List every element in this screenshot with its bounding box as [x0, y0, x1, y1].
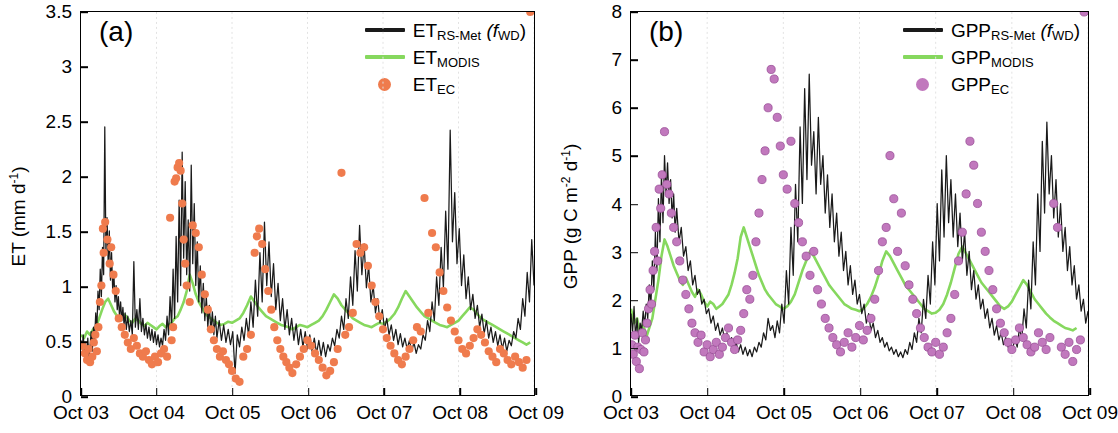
data-point	[993, 305, 1001, 313]
y-tick-mark	[631, 252, 638, 254]
data-point	[97, 281, 105, 289]
y-tick-label: 5	[611, 145, 631, 167]
data-point	[676, 257, 684, 265]
data-point	[737, 326, 745, 334]
y-tick-label: 7	[611, 49, 631, 71]
x-tick-label: Oct 04	[680, 395, 736, 424]
data-point	[682, 290, 690, 298]
data-point	[192, 229, 200, 237]
y-tick-mark	[631, 204, 638, 206]
data-point	[243, 345, 251, 353]
data-point	[649, 266, 657, 274]
data-point	[989, 286, 997, 294]
data-point	[1034, 329, 1042, 337]
data-point	[859, 336, 867, 344]
x-tick-label: Oct 07	[356, 395, 412, 424]
data-point	[746, 295, 754, 303]
data-point	[647, 300, 655, 308]
data-point	[646, 286, 654, 294]
y-tick-mark	[81, 231, 88, 233]
data-point	[954, 257, 962, 265]
data-point	[985, 266, 993, 274]
data-point	[383, 334, 391, 342]
y-tick-label: 1	[61, 276, 81, 298]
data-point	[100, 249, 108, 257]
x-tick-mark	[232, 388, 234, 395]
data-point	[364, 262, 372, 270]
data-point	[874, 266, 882, 274]
y-tick-mark	[81, 286, 88, 288]
data-point	[462, 349, 470, 357]
data-point	[121, 331, 129, 339]
series-canvas-a	[81, 12, 534, 395]
data-point	[764, 104, 772, 112]
x-tick-mark	[707, 388, 709, 395]
data-point	[142, 347, 150, 355]
data-point	[315, 356, 323, 364]
data-point	[264, 287, 272, 295]
data-point	[219, 347, 227, 355]
data-point	[958, 228, 966, 236]
data-point	[962, 190, 970, 198]
x-tick-mark	[1013, 388, 1015, 395]
x-tick-mark	[860, 388, 862, 395]
data-point	[115, 314, 123, 322]
data-point	[791, 199, 799, 207]
y-tick-label: 2.5	[46, 111, 81, 133]
data-point	[810, 247, 818, 255]
y-axis-label-a-text: ET (mm d-1)	[8, 166, 30, 266]
data-point	[235, 378, 243, 386]
y-tick-mark	[631, 107, 638, 109]
plot-area-b: (b) GPPRS-Met (fWD) GPPMODIS GPPEC 01	[630, 11, 1089, 396]
y-tick-label: 1.5	[46, 221, 81, 243]
data-point	[1012, 336, 1020, 344]
data-point	[1008, 345, 1016, 353]
data-point	[432, 243, 440, 251]
data-point	[175, 159, 183, 167]
data-point	[288, 369, 296, 377]
data-point	[379, 325, 387, 333]
x-tick-label: Oct 05	[205, 395, 261, 424]
series-canvas-b	[631, 12, 1088, 395]
data-point	[631, 331, 639, 339]
data-point	[526, 12, 534, 16]
plot-inner-a	[81, 12, 534, 395]
x-tick-mark	[535, 388, 537, 395]
data-point	[840, 338, 848, 346]
data-point	[773, 113, 781, 121]
data-point	[1069, 357, 1077, 365]
data-point	[247, 331, 255, 339]
panel-a: ET (mm d-1) (a) ETRS-Met (fWD) ETMODIS E…	[0, 0, 554, 433]
y-axis-label-a: ET (mm d-1)	[8, 0, 30, 433]
panel-b: GPP (g C m-2 d-1) (b) GPPRS-Met (fWD) GP…	[554, 0, 1108, 433]
data-point	[169, 323, 177, 331]
data-point	[697, 331, 705, 339]
data-point	[163, 353, 171, 361]
x-tick-label: Oct 03	[603, 395, 659, 424]
data-point	[103, 236, 111, 244]
y-tick-label: 3.5	[46, 1, 81, 23]
data-point	[673, 238, 681, 246]
data-point	[451, 327, 459, 335]
data-point	[481, 338, 489, 346]
data-point	[776, 142, 784, 150]
data-point	[1076, 336, 1084, 344]
data-point	[107, 243, 115, 251]
y-tick-label: 8	[611, 1, 631, 23]
x-tick-mark	[80, 388, 82, 395]
x-tick-mark	[630, 388, 632, 395]
data-point	[836, 348, 844, 356]
data-point	[371, 298, 379, 306]
data-point	[947, 314, 955, 322]
data-point	[276, 345, 284, 353]
data-point	[186, 298, 194, 306]
data-point	[195, 243, 203, 251]
data-point	[767, 65, 775, 73]
data-point	[970, 161, 978, 169]
x-tick-mark	[936, 388, 938, 395]
data-point	[84, 345, 92, 353]
data-point	[375, 312, 383, 320]
y-tick-mark	[631, 11, 638, 13]
data-point	[966, 137, 974, 145]
data-point	[848, 343, 856, 351]
